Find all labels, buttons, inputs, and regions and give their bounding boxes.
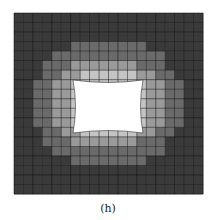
deformed-mesh-plot <box>0 0 216 220</box>
figure-caption: (h) <box>0 202 216 215</box>
central-hole <box>73 80 143 133</box>
